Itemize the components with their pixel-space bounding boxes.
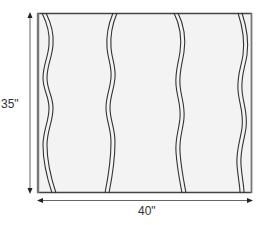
width-dimension-label: 40" bbox=[138, 205, 156, 217]
arrow-up-icon bbox=[28, 12, 33, 18]
horizontal-dimension-arrow bbox=[37, 198, 253, 203]
vertical-dimension-arrow bbox=[28, 12, 33, 194]
quilt-layout-diagram bbox=[0, 0, 268, 225]
arrow-down-icon bbox=[28, 188, 33, 194]
arrow-left-icon bbox=[37, 198, 43, 203]
height-dimension-label: 35" bbox=[1, 98, 19, 110]
arrow-right-icon bbox=[247, 198, 253, 203]
panel-background bbox=[37, 13, 252, 193]
